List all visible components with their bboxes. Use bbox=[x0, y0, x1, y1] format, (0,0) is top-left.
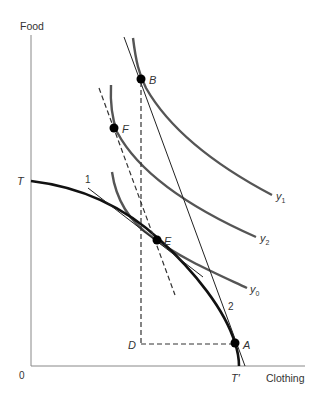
label-y0: y0 bbox=[249, 283, 260, 297]
point-a bbox=[231, 339, 240, 348]
label-e: E bbox=[164, 235, 172, 247]
label-line-2: 2 bbox=[228, 301, 234, 312]
trade-diagram: Food Clothing 0 B F E D A T T′ 1 2 y1 y2… bbox=[0, 0, 321, 402]
indifference-curve-y2 bbox=[111, 85, 256, 237]
origin-label: 0 bbox=[19, 370, 25, 381]
axes bbox=[31, 35, 305, 366]
label-line-1: 1 bbox=[85, 174, 91, 185]
label-d: D bbox=[128, 339, 136, 351]
label-f: F bbox=[122, 123, 130, 135]
label-y1: y1 bbox=[275, 190, 286, 204]
label-y2: y2 bbox=[259, 232, 270, 246]
point-e bbox=[153, 236, 162, 245]
label-t-prime: T′ bbox=[231, 372, 241, 384]
indifference-curve-y1 bbox=[133, 38, 272, 195]
x-axis-label: Clothing bbox=[266, 372, 305, 384]
label-a: A bbox=[242, 339, 250, 351]
price-line-1 bbox=[88, 188, 203, 277]
y-axis-label: Food bbox=[20, 20, 44, 32]
indifference-curve-y0 bbox=[112, 172, 247, 288]
point-f bbox=[110, 124, 119, 133]
price-line-2 bbox=[124, 37, 245, 366]
dashed-price-line bbox=[99, 88, 175, 295]
label-t: T bbox=[17, 175, 25, 187]
point-b bbox=[137, 75, 146, 84]
label-b: B bbox=[149, 74, 156, 86]
